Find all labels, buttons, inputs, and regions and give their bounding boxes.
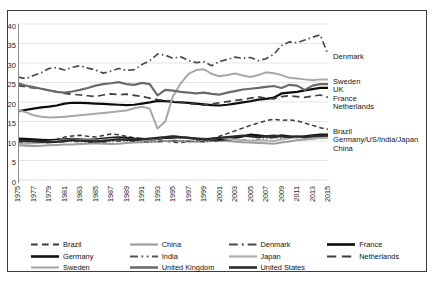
chart-screenshot: 0510152025303540 19751977197919811983198… bbox=[0, 0, 442, 282]
end-label-netherlands: Netherlands bbox=[333, 103, 374, 112]
legend-key-united-kingdom bbox=[129, 263, 159, 272]
x-tick-label: 2001 bbox=[216, 186, 223, 202]
series-line-sweden bbox=[18, 69, 328, 128]
legend-label: India bbox=[162, 252, 178, 261]
legend-item[interactable]: France bbox=[326, 240, 425, 249]
x-tick-label: 1987 bbox=[107, 186, 114, 202]
legend-item[interactable]: Japan bbox=[228, 252, 327, 261]
x-tick-label: 1975 bbox=[14, 186, 21, 202]
legend-label: Brazil bbox=[63, 240, 81, 249]
x-tick-label: 1979 bbox=[45, 186, 52, 202]
x-tick-label: 1995 bbox=[169, 186, 176, 202]
chart-frame: 0510152025303540 19751977197919811983198… bbox=[7, 10, 427, 272]
x-tick-label: 2003 bbox=[231, 186, 238, 202]
x-tick-label: 1993 bbox=[154, 186, 161, 202]
chart-svg bbox=[18, 21, 328, 183]
legend-item[interactable]: Brazil bbox=[30, 240, 129, 249]
x-tick-label: 2007 bbox=[262, 186, 269, 202]
legend-item[interactable]: Netherlands bbox=[326, 252, 425, 261]
legend-label: Germany bbox=[63, 252, 93, 261]
x-tick-label: 1983 bbox=[76, 186, 83, 202]
y-tick-label: 30 bbox=[0, 62, 16, 70]
legend-row: GermanyIndiaJapanNetherlands bbox=[30, 251, 425, 263]
legend-key-france bbox=[326, 240, 356, 249]
y-tick-label: 40 bbox=[0, 23, 16, 31]
x-tick-label: 1989 bbox=[123, 186, 130, 202]
legend-item[interactable]: Germany bbox=[30, 252, 129, 261]
y-tick-label: 35 bbox=[0, 42, 16, 50]
chart-legend: BrazilChinaDenmarkFranceGermanyIndiaJapa… bbox=[30, 239, 425, 274]
x-tick-label: 1977 bbox=[30, 186, 37, 202]
legend-row: SwedenUnited KingdomUnited States bbox=[30, 262, 425, 274]
y-tick-label: 20 bbox=[0, 101, 16, 109]
series-line-denmark bbox=[18, 35, 328, 79]
legend-item[interactable]: China bbox=[129, 240, 228, 249]
legend-item[interactable]: United Kingdom bbox=[129, 263, 228, 272]
legend-key-china bbox=[129, 240, 159, 249]
legend-item[interactable]: Denmark bbox=[228, 240, 327, 249]
legend-label: Denmark bbox=[261, 240, 291, 249]
legend-key-germany bbox=[30, 252, 60, 261]
legend-label: United Kingdom bbox=[162, 263, 215, 272]
legend-key-united-states bbox=[228, 263, 258, 272]
x-tick-label: 2009 bbox=[278, 186, 285, 202]
end-label-denmark: Denmark bbox=[333, 53, 364, 62]
x-tick-label: 1997 bbox=[185, 186, 192, 202]
x-tick-label: 1999 bbox=[200, 186, 207, 202]
x-tick-label: 1981 bbox=[61, 186, 68, 202]
legend-item[interactable]: Sweden bbox=[30, 263, 129, 272]
x-tick-label: 2013 bbox=[309, 186, 316, 202]
legend-label: Japan bbox=[261, 252, 281, 261]
y-tick-label: 25 bbox=[0, 81, 16, 89]
legend-key-denmark bbox=[228, 240, 258, 249]
legend-key-india bbox=[129, 252, 159, 261]
legend-label: Netherlands bbox=[359, 252, 399, 261]
legend-label: United States bbox=[261, 263, 305, 272]
y-tick-label: 10 bbox=[0, 140, 16, 148]
legend-label: China bbox=[162, 240, 181, 249]
x-tick-label: 2015 bbox=[324, 186, 331, 202]
legend-key-sweden bbox=[30, 263, 60, 272]
x-tick-label: 2005 bbox=[247, 186, 254, 202]
x-tick-label: 1991 bbox=[138, 186, 145, 202]
plot-area bbox=[18, 21, 328, 183]
end-label-china: China bbox=[333, 145, 353, 154]
legend-row: BrazilChinaDenmarkFrance bbox=[30, 239, 425, 251]
y-axis-line bbox=[18, 24, 19, 183]
legend-key-brazil bbox=[30, 240, 60, 249]
legend-label: Sweden bbox=[63, 263, 90, 272]
y-tick-label: 15 bbox=[0, 120, 16, 128]
x-tick-label: 1985 bbox=[92, 186, 99, 202]
y-tick-label: 5 bbox=[0, 159, 16, 167]
legend-item[interactable]: India bbox=[129, 252, 228, 261]
legend-key-japan bbox=[228, 252, 258, 261]
legend-key-netherlands bbox=[326, 252, 356, 261]
legend-label: France bbox=[359, 240, 382, 249]
x-tick-label: 2011 bbox=[293, 186, 300, 201]
legend-item[interactable]: United States bbox=[228, 263, 327, 272]
